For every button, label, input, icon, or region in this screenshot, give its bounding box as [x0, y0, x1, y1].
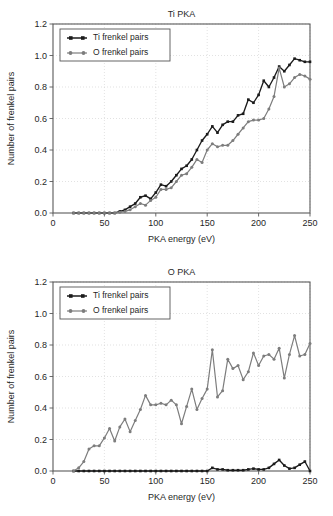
- data-point-o: [144, 394, 147, 397]
- data-point-o: [82, 212, 85, 215]
- data-point-ti: [175, 174, 178, 177]
- y-tick-label: 0.8: [34, 82, 47, 92]
- data-point-o: [298, 355, 301, 358]
- data-point-ti: [196, 470, 199, 473]
- data-point-o: [129, 208, 132, 211]
- x-tick-label: 100: [148, 218, 163, 228]
- data-point-o: [206, 149, 209, 152]
- data-point-o: [206, 388, 209, 391]
- data-point-o: [309, 78, 312, 81]
- data-point-o: [231, 139, 234, 142]
- data-point-ti: [309, 470, 312, 473]
- data-point-ti: [155, 470, 158, 473]
- data-point-o: [129, 430, 132, 433]
- data-point-ti: [185, 164, 188, 167]
- legend: Ti frenkel pairsO frenkel pairs: [60, 287, 170, 319]
- y-tick-label: 0.2: [34, 435, 47, 445]
- data-point-ti: [273, 463, 276, 466]
- data-point-o: [113, 212, 116, 215]
- data-point-ti: [252, 467, 255, 470]
- data-point-o: [262, 355, 265, 358]
- data-point-ti: [149, 470, 152, 473]
- data-point-o: [247, 370, 250, 373]
- data-point-o: [221, 389, 224, 392]
- y-tick-label: 1.2: [34, 19, 47, 29]
- data-point-o: [77, 212, 80, 215]
- data-point-ti: [160, 470, 163, 473]
- data-point-ti: [257, 468, 260, 471]
- chart-title: O PKA: [168, 267, 196, 277]
- legend-label: Ti frenkel pairs: [93, 290, 148, 300]
- data-point-ti: [155, 191, 158, 194]
- data-point-o: [82, 460, 85, 463]
- chart-title: Ti PKA: [168, 9, 196, 19]
- data-point-o: [257, 119, 260, 122]
- data-point-o: [195, 408, 198, 411]
- data-point-o: [201, 161, 204, 164]
- data-point-ti: [129, 470, 132, 473]
- data-point-o: [98, 212, 101, 215]
- x-tick-label: 250: [302, 476, 317, 486]
- data-point-o: [123, 418, 126, 421]
- data-point-ti: [139, 196, 142, 199]
- data-point-ti: [288, 467, 291, 470]
- data-point-o: [257, 364, 260, 367]
- data-point-o: [298, 73, 301, 76]
- data-point-o: [201, 397, 204, 400]
- legend-marker-square: [69, 294, 73, 298]
- series-line-ti: [74, 460, 310, 471]
- data-point-o: [154, 403, 157, 406]
- data-point-o: [139, 202, 142, 205]
- data-point-ti: [232, 469, 235, 472]
- data-point-ti: [216, 468, 219, 471]
- legend-marker-square: [81, 36, 85, 40]
- data-point-o: [93, 444, 96, 447]
- data-point-ti: [165, 470, 168, 473]
- data-point-o: [72, 212, 75, 215]
- data-point-o: [144, 204, 147, 207]
- data-point-o: [170, 399, 173, 402]
- data-point-o: [293, 334, 296, 337]
- data-point-ti: [278, 459, 281, 462]
- data-point-ti: [190, 158, 193, 161]
- data-point-o: [252, 119, 255, 122]
- chart-o-pka: 0501001502002500.00.20.40.60.81.01.2O PK…: [0, 258, 333, 516]
- y-tick-label: 0.6: [34, 114, 47, 124]
- data-point-ti: [77, 470, 80, 473]
- data-point-o: [77, 466, 80, 469]
- data-point-o: [195, 158, 198, 161]
- data-point-o: [226, 358, 229, 361]
- data-point-o: [211, 142, 214, 145]
- data-point-ti: [216, 131, 219, 134]
- data-point-o: [108, 427, 111, 430]
- y-tick-label: 0.8: [34, 340, 47, 350]
- data-point-o: [252, 351, 255, 354]
- y-tick-label: 1.0: [34, 51, 47, 61]
- y-tick-label: 0.0: [34, 208, 47, 218]
- data-point-ti: [119, 470, 122, 473]
- data-point-o: [123, 210, 126, 213]
- data-point-o: [154, 196, 157, 199]
- x-tick-label: 0: [50, 476, 55, 486]
- data-point-ti: [257, 94, 260, 97]
- legend-marker-circle: [69, 51, 73, 55]
- legend-marker-circle: [69, 309, 73, 313]
- y-tick-label: 1.0: [34, 309, 47, 319]
- data-point-ti: [160, 183, 163, 186]
- data-point-ti: [139, 470, 142, 473]
- data-point-ti: [268, 467, 271, 470]
- data-point-ti: [247, 468, 250, 471]
- data-point-o: [273, 95, 276, 98]
- series-group: [72, 57, 311, 214]
- data-point-o: [134, 205, 137, 208]
- x-tick-label: 150: [200, 476, 215, 486]
- data-point-ti: [103, 470, 106, 473]
- y-tick-label: 0.6: [34, 372, 47, 382]
- legend-marker-square: [81, 294, 85, 298]
- data-point-ti: [298, 59, 301, 62]
- series-group: [72, 334, 311, 472]
- data-point-o: [237, 364, 240, 367]
- data-point-o: [103, 436, 106, 439]
- data-point-ti: [180, 470, 183, 473]
- data-point-o: [267, 353, 270, 356]
